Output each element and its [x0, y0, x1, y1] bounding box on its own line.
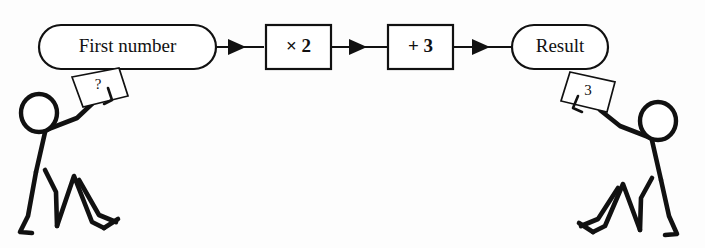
right-figure-head	[640, 102, 676, 140]
left-figure-hip-to-knee	[45, 170, 57, 226]
left-figure-head	[21, 94, 57, 132]
node-plus[interactable]: + 3	[388, 25, 453, 69]
node-output[interactable]: Result	[512, 25, 608, 69]
right-figure-spine	[651, 136, 661, 180]
node-times-label: × 2	[286, 35, 311, 56]
node-times[interactable]: × 2	[266, 25, 331, 69]
node-input[interactable]: First number	[39, 25, 216, 69]
right-card: 3	[561, 72, 615, 112]
diagram-canvas: First number × 2 + 3 Result	[0, 0, 705, 248]
left-figure-back-leg	[20, 172, 36, 233]
left-figure-spine	[36, 128, 46, 172]
left-figure	[20, 94, 118, 233]
connector-arrow-2	[331, 39, 387, 55]
node-output-label: Result	[536, 35, 585, 56]
right-card-label: 3	[584, 82, 592, 98]
function-machine-diagram: First number × 2 + 3 Result	[0, 0, 705, 248]
left-card: ?	[72, 68, 128, 107]
right-figure-back-leg	[661, 180, 677, 235]
node-input-label: First number	[79, 35, 177, 56]
right-figure-hip-to-knee	[640, 178, 652, 230]
left-card-label: ?	[95, 76, 102, 92]
node-plus-label: + 3	[408, 35, 433, 56]
arrow-2-head	[349, 39, 367, 55]
arrow-3-head	[472, 39, 490, 55]
arrow-1-head	[228, 39, 246, 55]
connector-arrow-3	[453, 39, 513, 55]
connector-arrow-1	[216, 39, 264, 55]
right-figure	[579, 102, 677, 235]
